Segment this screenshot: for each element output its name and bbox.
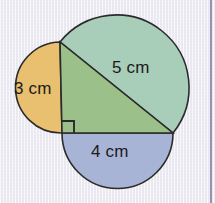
geometry-diagram	[0, 0, 215, 203]
label-leg-b: 4 cm	[91, 143, 129, 160]
label-leg-a: 3 cm	[14, 80, 52, 97]
label-hypotenuse: 5 cm	[112, 59, 150, 76]
geometry-figure: 3 cm 5 cm 4 cm	[0, 0, 215, 203]
